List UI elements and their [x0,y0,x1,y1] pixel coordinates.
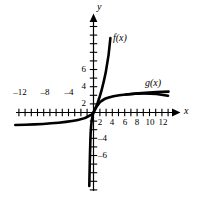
x-tick-label-neg12: ‒12 [8,88,32,97]
x-tick-label-neg8: ‒8 [33,88,57,97]
y-tick-label-neg4: ‒4 [98,134,116,143]
x-tick-label-12: 12 [155,118,171,127]
y-axis-label: y [97,2,101,12]
y-tick-label-6: 6 [74,65,86,74]
x-axis-arrow-icon [172,109,181,117]
curve-label-g: g(x) [145,78,161,88]
x-tick-label-2: 2 [94,118,106,127]
graph-figure: ‒12 ‒8 ‒4 2 4 6 8 10 12 6 4 2 ‒4 ‒6 y x … [0,0,198,198]
y-axis-arrow-icon [90,14,98,23]
x-tick-label-4: 4 [106,118,118,127]
y-tick-label-2: 2 [74,99,86,108]
x-tick-label-6: 6 [119,118,131,127]
y-tick-label-4: 4 [74,82,86,91]
x-axis-label: x [184,106,188,116]
curve-label-f: f(x) [113,33,127,43]
y-tick-label-neg6: ‒6 [98,151,116,160]
coordinate-plane [0,0,198,198]
